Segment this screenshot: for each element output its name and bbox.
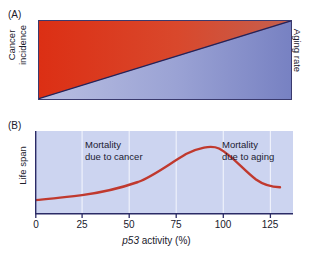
figure-container: (A) Canc <box>0 0 313 253</box>
panel-a-plot <box>38 20 292 100</box>
x-tick-label-75: 75 <box>170 219 181 230</box>
panel-a-right-axis-label: Aging rate <box>292 20 303 82</box>
panel-a-left-axis-label: Cancer incidence <box>6 12 28 78</box>
panel-b-y-axis-label: Life span <box>17 136 28 196</box>
x-tick-label-25: 25 <box>76 219 87 230</box>
panel-b-letter: (B) <box>8 120 21 131</box>
panel-b-x-axis-svg <box>35 213 293 237</box>
annotation-mortality-due-to-cancer: Mortality due to cancer <box>85 139 143 162</box>
x-tick-label-50: 50 <box>123 219 134 230</box>
panel-b-x-axis <box>35 213 293 237</box>
x-tick-label-100: 100 <box>215 219 232 230</box>
panel-a-svg <box>38 20 292 100</box>
x-axis-title-rest: activity (%) <box>139 235 191 246</box>
panel-b-x-axis-title: p53 activity (%) <box>0 235 313 246</box>
x-axis-title-symbol: p53 <box>122 235 139 246</box>
x-tick-label-125: 125 <box>262 219 279 230</box>
annotation-mortality-due-to-aging: Mortality due to aging <box>222 139 274 162</box>
x-tick-label-0: 0 <box>33 219 39 230</box>
